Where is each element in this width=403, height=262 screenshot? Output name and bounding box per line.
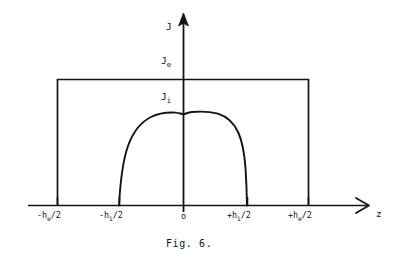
tick-label-pos-hi-2-base: +h: [227, 210, 237, 220]
tick-label-pos-he-2-base: +h: [288, 210, 298, 220]
y-axis-label: J: [166, 22, 172, 32]
level-label-ji-subscript: i: [167, 96, 171, 105]
tick-label-neg-he-2: -he/2: [37, 211, 61, 220]
tick-label-pos-he-2: +he/2: [288, 211, 312, 220]
figure-plot-svg: [0, 0, 403, 262]
level-label-ji: Ji: [161, 92, 171, 102]
tick-label-pos-hi-2-suffix: /2: [241, 210, 251, 220]
tick-label-neg-hi-2: -hi/2: [99, 211, 123, 220]
figure-caption: Fig. 6.: [166, 239, 212, 249]
tick-label-neg-hi-2-base: -h: [99, 210, 109, 220]
tick-label-pos-he-2-suffix: /2: [302, 210, 312, 220]
tick-label-neg-hi-2-suffix: /2: [113, 210, 123, 220]
figure-container: J z Je Ji -he/2 -hi/2 o +hi/2 +he/2 Fig.…: [0, 0, 403, 262]
tick-label-pos-hi-2: +hi/2: [227, 211, 251, 220]
tick-label-neg-he-2-suffix: /2: [51, 210, 61, 220]
level-label-je-subscript: e: [167, 60, 171, 69]
tick-label-origin: o: [181, 212, 186, 221]
tick-label-neg-he-2-base: -h: [37, 210, 47, 220]
level-label-je: Je: [161, 56, 171, 66]
x-axis-label: z: [376, 209, 382, 219]
